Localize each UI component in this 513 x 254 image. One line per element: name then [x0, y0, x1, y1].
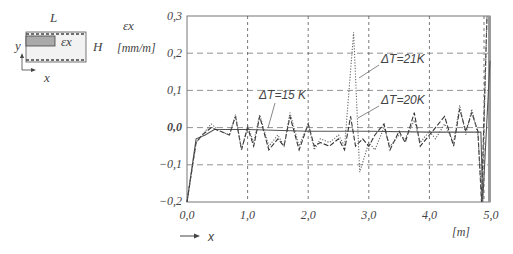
series-line-1: [187, 16, 487, 202]
svg-text:0,1: 0,1: [167, 83, 182, 97]
series-line-0: [187, 61, 490, 202]
svg-text:−0,2: −0,2: [159, 194, 182, 208]
inset-strain-label: εx: [61, 34, 72, 49]
y-tick-labels: 0,3 0,2 0,1 0,0 −0,1 −0,2: [159, 9, 182, 208]
x-axis-symbol: x: [207, 230, 215, 244]
x-axis-unit: [m]: [452, 225, 470, 239]
v-gridlines: [248, 16, 484, 202]
plot-frame: [187, 16, 490, 202]
y-axis-symbol: εx: [123, 18, 134, 33]
svg-text:4,0: 4,0: [422, 208, 437, 222]
svg-text:0,0: 0,0: [167, 120, 182, 134]
series-layer: [187, 16, 490, 202]
inset-y-label: y: [13, 38, 21, 53]
svg-text:0,0: 0,0: [180, 208, 195, 222]
annotation-dt21: ΔT=21K: [380, 52, 426, 66]
annotation-dt15: ΔT=15 K: [258, 88, 307, 102]
svg-text:2,0: 2,0: [301, 208, 316, 222]
strain-chart: L εx H y x εx [mm/m] 0,3 0,2 0,1 0,0: [0, 0, 513, 254]
y-axis-unit: [mm/m]: [117, 41, 156, 55]
svg-text:−0,1: −0,1: [159, 157, 182, 171]
annotation-dt20: ΔT=20K: [380, 93, 426, 107]
strain-gauge-region: [26, 36, 55, 46]
right-edge-bar: [488, 16, 491, 202]
x-tick-labels: 0,0 1,0 2,0 3,0 4,0 5,0: [180, 208, 499, 222]
svg-text:1,0: 1,0: [240, 208, 255, 222]
h-gridlines: [187, 53, 490, 165]
series-line-2: [187, 16, 487, 202]
length-label: L: [49, 10, 57, 25]
svg-text:0,2: 0,2: [167, 46, 182, 60]
beam-diagram: L εx H y x: [13, 10, 103, 85]
inset-x-label: x: [43, 70, 50, 85]
svg-text:0,3: 0,3: [167, 9, 182, 23]
svg-text:3,0: 3,0: [360, 208, 376, 222]
height-label: H: [92, 39, 103, 54]
svg-text:5,0: 5,0: [484, 208, 499, 222]
